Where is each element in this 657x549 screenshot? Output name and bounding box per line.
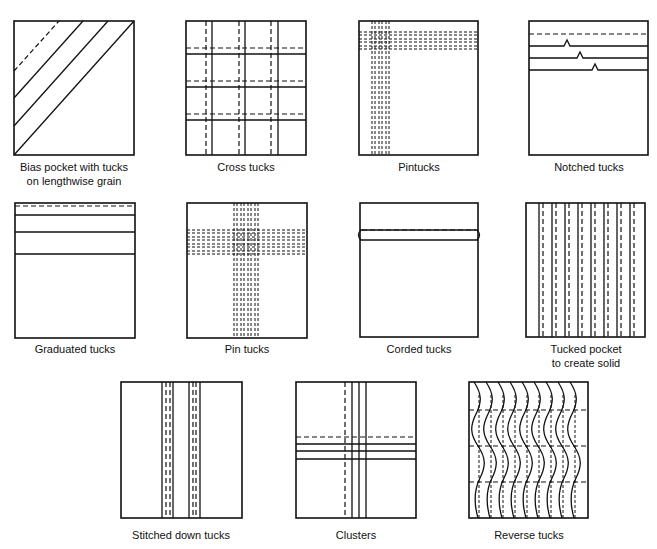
caption-line: Pintucks: [339, 160, 499, 174]
caption-cross-tucks: Cross tucks: [166, 160, 326, 174]
caption-line: to create solid: [506, 356, 657, 370]
caption-pin-tucks: Pin tucks: [167, 342, 327, 356]
caption-line: Cross tucks: [166, 160, 326, 174]
caption-line: Stitched down tucks: [101, 528, 261, 542]
caption-graduated-tucks: Graduated tucks: [0, 342, 155, 356]
diagram-graduated-tucks: [15, 203, 135, 338]
caption-notched-tucks: Notched tucks: [509, 160, 657, 174]
caption-line: Reverse tucks: [449, 528, 609, 542]
caption-pintucks: Pintucks: [339, 160, 499, 174]
diagram-stitched-down-tucks: [121, 382, 242, 518]
diagram-bias-pocket: [14, 21, 134, 155]
caption-bias-pocket: Bias pocket with tucks on lengthwise gra…: [0, 160, 154, 188]
caption-tucked-pocket: Tucked pocket to create solid: [506, 342, 657, 370]
caption-line: Notched tucks: [509, 160, 657, 174]
caption-line: Clusters: [276, 528, 436, 542]
caption-reverse-tucks: Reverse tucks: [449, 528, 609, 542]
caption-stitched-down-tucks: Stitched down tucks: [101, 528, 261, 542]
diagram-pin-tucks: [187, 203, 307, 338]
caption-corded-tucks: Corded tucks: [339, 342, 499, 356]
diagram-corded-tucks: [359, 203, 480, 337]
caption-line: on lengthwise grain: [0, 174, 154, 188]
caption-line: Bias pocket with tucks: [0, 160, 154, 174]
caption-line: Corded tucks: [339, 342, 499, 356]
caption-clusters: Clusters: [276, 528, 436, 542]
diagram-clusters: [296, 382, 416, 518]
diagram-reverse-tucks: [469, 382, 588, 518]
diagram-tucked-pocket: [526, 203, 645, 337]
diagram-notched-tucks: [529, 21, 648, 155]
caption-line: Tucked pocket: [506, 342, 657, 356]
diagram-cross-tucks: [186, 21, 306, 155]
tuck-diagrams: .s { stroke: #111; stroke-width: 1.3; fi…: [0, 0, 657, 549]
diagram-pintucks: [359, 21, 478, 155]
caption-line: Pin tucks: [167, 342, 327, 356]
caption-line: Graduated tucks: [0, 342, 155, 356]
